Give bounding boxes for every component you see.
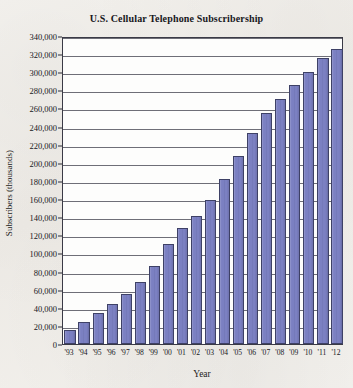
x-axis-tick-label: '00 [163, 348, 172, 357]
y-axis-tick-label: 140,000 [0, 213, 57, 223]
x-axis-tick-label: '12 [331, 348, 340, 357]
bar [275, 99, 286, 344]
y-axis-tick-label: 0 [0, 340, 57, 350]
y-axis-tick-mark [58, 254, 62, 255]
y-axis-tick-label: 80,000 [0, 268, 57, 278]
x-axis-tick-label: '96 [107, 348, 116, 357]
bar [121, 294, 132, 344]
x-axis-title: Year [62, 369, 342, 379]
y-axis-tick-mark [58, 236, 62, 237]
x-axis-tick-label: '09 [289, 348, 298, 357]
y-axis-tick-label: 320,000 [0, 50, 57, 60]
y-axis-tick-mark [58, 200, 62, 201]
bar [64, 330, 75, 344]
y-axis-tick-mark [58, 308, 62, 309]
y-axis-tick-label: 180,000 [0, 177, 57, 187]
y-axis-tick-label: 240,000 [0, 123, 57, 133]
bar [177, 228, 188, 344]
y-axis-tick-label: 160,000 [0, 195, 57, 205]
y-axis-tick-mark [58, 345, 62, 346]
y-axis-tick-label: 200,000 [0, 159, 57, 169]
bar [78, 322, 89, 344]
bar [233, 156, 244, 344]
y-axis-tick-mark [58, 55, 62, 56]
x-axis-tick-label: '10 [303, 348, 312, 357]
x-axis-tick-label: '07 [261, 348, 270, 357]
y-axis-tick-mark [58, 290, 62, 291]
y-axis-tick-mark [58, 37, 62, 38]
bar [191, 216, 202, 344]
bar [331, 49, 342, 344]
y-axis-tick-mark [58, 145, 62, 146]
bar [261, 113, 272, 344]
x-axis-tick-label: '06 [247, 348, 256, 357]
bar [289, 85, 300, 344]
bar [149, 266, 160, 344]
y-axis-tick-mark [58, 272, 62, 273]
y-axis-tick-mark [58, 73, 62, 74]
y-axis-tick-mark [58, 181, 62, 182]
x-axis-tick-label: '93 [65, 348, 74, 357]
bar [135, 282, 146, 345]
bar [247, 133, 258, 344]
x-axis-tick-label: '98 [135, 348, 144, 357]
y-axis-tick-label: 60,000 [0, 286, 57, 296]
y-axis-tick-mark [58, 218, 62, 219]
x-axis-tick-label: '01 [177, 348, 186, 357]
y-axis-tick-label: 280,000 [0, 86, 57, 96]
bar [219, 179, 230, 344]
y-axis-tick-label: 220,000 [0, 141, 57, 151]
y-axis-tick-label: 20,000 [0, 322, 57, 332]
y-axis-tick-mark [58, 91, 62, 92]
bar-series [63, 38, 342, 344]
bar [107, 304, 118, 344]
bar [317, 58, 328, 344]
y-axis-tick-label: 40,000 [0, 304, 57, 314]
y-axis-tick-mark [58, 109, 62, 110]
bar [205, 200, 216, 344]
chart-title: U.S. Cellular Telephone Subscribership [0, 13, 353, 24]
x-axis-tick-label: '02 [191, 348, 200, 357]
y-axis-tick-mark [58, 127, 62, 128]
y-axis-tick-mark [58, 163, 62, 164]
x-axis-tick-label: '97 [121, 348, 130, 357]
y-axis-tick-label: 260,000 [0, 104, 57, 114]
plot-area [62, 37, 343, 345]
x-axis-tick-label: '95 [93, 348, 102, 357]
bar [93, 313, 104, 344]
x-axis-tick-label: '94 [79, 348, 88, 357]
y-axis-tick-label: 100,000 [0, 249, 57, 259]
x-axis-tick-label: '04 [219, 348, 228, 357]
y-axis-tick-label: 340,000 [0, 32, 57, 42]
bar [163, 244, 174, 344]
x-axis-tick-label: '11 [318, 348, 327, 357]
x-axis-tick-label: '05 [233, 348, 242, 357]
x-axis-tick-label: '99 [149, 348, 158, 357]
y-axis-tick-label: 300,000 [0, 68, 57, 78]
y-axis-tick-mark [58, 326, 62, 327]
bar-chart-figure: U.S. Cellular Telephone Subscribership S… [0, 0, 353, 388]
x-axis-tick-label: '08 [275, 348, 284, 357]
y-axis-tick-label: 120,000 [0, 231, 57, 241]
x-axis-tick-label: '03 [205, 348, 214, 357]
bar [303, 72, 314, 344]
